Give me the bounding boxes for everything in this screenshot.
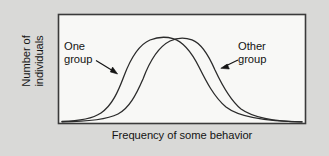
annotation-other-group-line2: group: [238, 53, 266, 66]
annotation-one-group-line2: group: [64, 53, 92, 66]
x-axis-label: Frequency of some behavior: [58, 129, 306, 141]
annotation-other-group: Other group: [238, 40, 266, 66]
figure-container: Number of individuals Frequency of some …: [0, 0, 329, 156]
annotation-one-group-line1: One: [64, 40, 92, 53]
annotation-one-group: One group: [64, 40, 92, 66]
annotation-other-group-line1: Other: [238, 40, 266, 53]
plot-frame: [59, 15, 306, 124]
